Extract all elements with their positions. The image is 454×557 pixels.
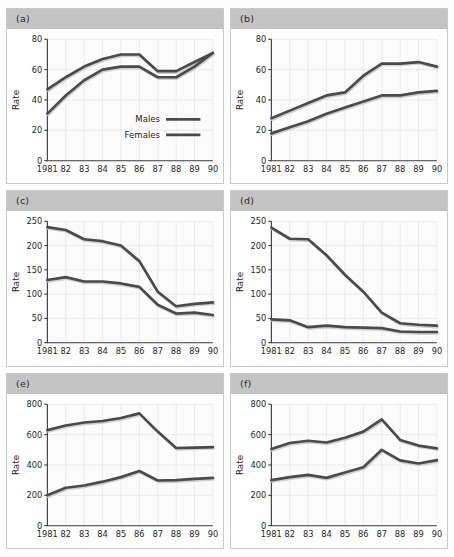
- line-chart: 0501001502002501981828384858687888990Rat…: [231, 211, 447, 365]
- panel-label: (a): [16, 13, 30, 24]
- chart-panel-f: (f)02004006008001981828384858687888990Ra…: [230, 373, 448, 549]
- x-tick-label: 82: [61, 346, 72, 356]
- x-tick-label: 89: [189, 164, 200, 174]
- x-tick-label: 84: [321, 346, 332, 356]
- plot-area: 02004006008001981828384858687888990Rate: [231, 394, 447, 548]
- chart-panel-d: (d)0501001502002501981828384858687888990…: [230, 190, 448, 366]
- y-axis-label: Rate: [235, 455, 245, 475]
- panel-header: (f): [231, 374, 447, 394]
- x-tick-label: 1981: [37, 346, 58, 356]
- x-tick-label: 89: [413, 529, 424, 539]
- x-tick-label: 83: [79, 164, 90, 174]
- y-tick-label: 50: [256, 314, 267, 324]
- y-tick-label: 20: [256, 125, 267, 135]
- x-tick-label: 85: [340, 529, 351, 539]
- x-tick-label: 90: [208, 346, 219, 356]
- y-tick-label: 400: [27, 460, 43, 470]
- legend-label-females: Females: [125, 130, 161, 140]
- panel-label: (c): [16, 195, 29, 206]
- y-tick-label: 80: [32, 34, 43, 44]
- y-tick-label: 100: [27, 289, 43, 299]
- line-chart: 0204060801981828384858687888990RateMales…: [7, 29, 223, 183]
- x-tick-label: 85: [340, 164, 351, 174]
- y-tick-label: 80: [256, 34, 267, 44]
- x-tick-label: 87: [152, 529, 163, 539]
- x-tick-label: 85: [116, 164, 127, 174]
- x-tick-label: 82: [285, 164, 296, 174]
- y-axis-label: Rate: [235, 90, 245, 110]
- x-tick-label: 89: [413, 164, 424, 174]
- x-tick-label: 1981: [37, 164, 58, 174]
- y-tick-label: 250: [27, 217, 43, 227]
- x-tick-label: 87: [152, 346, 163, 356]
- x-tick-label: 88: [395, 164, 406, 174]
- x-tick-label: 85: [340, 346, 351, 356]
- x-tick-label: 90: [432, 346, 443, 356]
- x-tick-label: 83: [303, 529, 314, 539]
- y-axis-label: Rate: [235, 272, 245, 292]
- x-tick-label: 1981: [261, 346, 282, 356]
- x-tick-label: 87: [376, 164, 387, 174]
- x-tick-label: 82: [285, 346, 296, 356]
- x-tick-label: 86: [358, 346, 369, 356]
- x-tick-label: 90: [208, 164, 219, 174]
- y-tick-label: 100: [251, 289, 267, 299]
- line-chart: 02004006008001981828384858687888990Rate: [231, 394, 447, 548]
- y-tick-label: 200: [251, 241, 267, 251]
- line-chart: 0501001502002501981828384858687888990Rat…: [7, 211, 223, 365]
- line-chart: 02004006008001981828384858687888990Rate: [7, 394, 223, 548]
- x-tick-label: 89: [189, 346, 200, 356]
- plot-area: 0501001502002501981828384858687888990Rat…: [231, 211, 447, 365]
- x-tick-label: 85: [116, 346, 127, 356]
- x-tick-label: 1981: [261, 164, 282, 174]
- plot-area: 0204060801981828384858687888990Rate: [231, 29, 447, 183]
- x-tick-label: 85: [116, 529, 127, 539]
- x-tick-label: 88: [171, 164, 182, 174]
- panel-label: (b): [240, 13, 254, 24]
- x-tick-label: 84: [321, 529, 332, 539]
- x-tick-label: 84: [97, 164, 108, 174]
- y-axis-label: Rate: [11, 455, 21, 475]
- x-tick-label: 82: [285, 529, 296, 539]
- figure-panel-grid: (a)0204060801981828384858687888990RateMa…: [0, 0, 454, 557]
- panel-header: (e): [7, 374, 223, 394]
- y-tick-label: 50: [32, 314, 43, 324]
- chart-panel-a: (a)0204060801981828384858687888990RateMa…: [6, 8, 224, 184]
- x-tick-label: 1981: [37, 529, 58, 539]
- y-tick-label: 150: [251, 265, 267, 275]
- x-tick-label: 82: [61, 164, 72, 174]
- chart-panel-c: (c)0501001502002501981828384858687888990…: [6, 190, 224, 366]
- y-tick-label: 800: [251, 399, 267, 409]
- x-tick-label: 83: [79, 346, 90, 356]
- y-tick-label: 40: [32, 95, 43, 105]
- x-tick-label: 86: [358, 529, 369, 539]
- y-tick-label: 60: [256, 65, 267, 75]
- y-tick-label: 600: [251, 429, 267, 439]
- x-tick-label: 90: [432, 164, 443, 174]
- y-tick-label: 150: [27, 265, 43, 275]
- y-tick-label: 400: [251, 460, 267, 470]
- panel-label: (d): [240, 195, 254, 206]
- x-tick-label: 84: [97, 529, 108, 539]
- plot-area: 02004006008001981828384858687888990Rate: [7, 394, 223, 548]
- panel-header: (c): [7, 191, 223, 211]
- y-tick-label: 200: [27, 241, 43, 251]
- legend-label-males: Males: [135, 114, 160, 124]
- y-tick-label: 600: [27, 429, 43, 439]
- y-tick-label: 250: [251, 217, 267, 227]
- chart-panel-b: (b)0204060801981828384858687888990Rate: [230, 8, 448, 184]
- x-tick-label: 89: [189, 529, 200, 539]
- panel-header: (b): [231, 9, 447, 29]
- x-tick-label: 90: [432, 529, 443, 539]
- x-tick-label: 83: [79, 529, 90, 539]
- y-axis-label: Rate: [11, 272, 21, 292]
- x-tick-label: 88: [395, 346, 406, 356]
- panel-header: (a): [7, 9, 223, 29]
- chart-panel-e: (e)02004006008001981828384858687888990Ra…: [6, 373, 224, 549]
- plot-area: 0204060801981828384858687888990RateMales…: [7, 29, 223, 183]
- x-tick-label: 89: [413, 346, 424, 356]
- x-tick-label: 88: [171, 529, 182, 539]
- y-tick-label: 20: [32, 125, 43, 135]
- panel-label: (e): [16, 378, 30, 389]
- x-tick-label: 87: [376, 346, 387, 356]
